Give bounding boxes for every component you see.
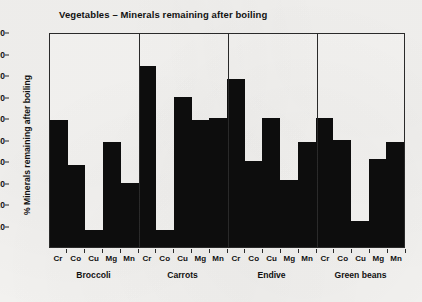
x-axis-tick-label-cr: Cr bbox=[316, 249, 334, 263]
x-axis-tick-label-mg: Mg bbox=[280, 249, 298, 263]
bar-green-beans-cu bbox=[351, 221, 369, 247]
bar-broccoli-cr bbox=[50, 120, 68, 247]
y-axis-tick-mark-90 bbox=[5, 54, 9, 55]
bar-group-green-beans bbox=[316, 34, 405, 247]
bar-green-beans-co bbox=[333, 140, 351, 248]
y-axis-label: % Minerals remaining after boiling bbox=[22, 45, 32, 245]
bar-broccoli-co bbox=[68, 165, 86, 247]
y-axis-tick-mark-100 bbox=[5, 33, 9, 34]
x-axis-groups: CrCoCuMgMnBroccoliCrCoCuMgMnCarrotsCrCoC… bbox=[49, 249, 405, 280]
bar-broccoli-mg bbox=[103, 142, 121, 247]
bar-group-broccoli bbox=[50, 34, 139, 247]
x-axis-group-carrots: CrCoCuMgMnCarrots bbox=[138, 249, 227, 280]
x-axis: CrCoCuMgMnBroccoliCrCoCuMgMnCarrotsCrCoC… bbox=[49, 249, 405, 302]
bar-endive-mg bbox=[280, 180, 298, 247]
bar-endive-cu bbox=[262, 118, 280, 247]
y-axis-tick-mark-20 bbox=[5, 205, 9, 206]
bar-endive-co bbox=[245, 161, 263, 247]
y-axis-tick-mark-70 bbox=[5, 97, 9, 98]
y-axis-tick-mark-10 bbox=[5, 226, 9, 227]
x-axis-group-endive: CrCoCuMgMnEndive bbox=[227, 249, 316, 280]
bar-carrots-mg bbox=[192, 120, 210, 247]
x-axis-tick-label-co: Co bbox=[67, 249, 85, 263]
chart-title: Vegetables – Minerals remaining after bo… bbox=[59, 9, 267, 20]
x-axis-tick-label-mg: Mg bbox=[191, 249, 209, 263]
bar-carrots-cr bbox=[139, 66, 157, 247]
x-axis-tick-label-mn: Mn bbox=[209, 249, 227, 263]
x-axis-tick-label-cu: Cu bbox=[352, 249, 370, 263]
x-axis-tick-label-co: Co bbox=[334, 249, 352, 263]
bar-broccoli-mn bbox=[121, 183, 139, 248]
group-separator-1 bbox=[139, 34, 140, 247]
bar-endive-mn bbox=[298, 142, 316, 247]
y-axis-tick-mark-80 bbox=[5, 76, 9, 77]
x-axis-mineral-row: CrCoCuMgMn bbox=[49, 249, 138, 263]
y-axis-tick-mark-50 bbox=[5, 140, 9, 141]
x-axis-group-green-beans: CrCoCuMgMnGreen beans bbox=[316, 249, 405, 280]
bar-group-endive bbox=[227, 34, 316, 247]
bar-broccoli-cu bbox=[85, 230, 103, 247]
x-axis-end-tick bbox=[405, 249, 406, 253]
bar-green-beans-mg bbox=[369, 159, 387, 247]
x-axis-tick-label-cu: Cu bbox=[174, 249, 192, 263]
x-axis-mineral-row: CrCoCuMgMn bbox=[227, 249, 316, 263]
y-axis-tick-mark-30 bbox=[5, 183, 9, 184]
x-axis-tick-label-cr: Cr bbox=[49, 249, 67, 263]
x-axis-group-label: Endive bbox=[227, 270, 316, 280]
x-axis-tick-label-mn: Mn bbox=[120, 249, 138, 263]
x-axis-tick-label-mg: Mg bbox=[102, 249, 120, 263]
x-axis-group-label: Green beans bbox=[316, 270, 405, 280]
bar-carrots-co bbox=[156, 230, 174, 247]
bar-carrots-cu bbox=[174, 97, 192, 248]
bar-endive-cr bbox=[227, 79, 245, 247]
x-axis-tick-label-mg: Mg bbox=[369, 249, 387, 263]
group-separator-2 bbox=[228, 34, 229, 247]
y-axis-tick-mark-60 bbox=[5, 119, 9, 120]
y-axis: % Minerals remaining after boiling 10203… bbox=[0, 0, 49, 302]
x-axis-tick-label-co: Co bbox=[156, 249, 174, 263]
x-axis-tick-label-cu: Cu bbox=[263, 249, 281, 263]
x-axis-tick-label-mn: Mn bbox=[387, 249, 405, 263]
bar-green-beans-cr bbox=[316, 118, 334, 247]
bars-layer bbox=[50, 34, 404, 247]
bar-group-carrots bbox=[139, 34, 228, 247]
x-axis-group-broccoli: CrCoCuMgMnBroccoli bbox=[49, 249, 138, 280]
x-axis-mineral-row: CrCoCuMgMn bbox=[316, 249, 405, 263]
x-axis-tick-label-co: Co bbox=[245, 249, 263, 263]
x-axis-group-label: Broccoli bbox=[49, 270, 138, 280]
bar-carrots-mn bbox=[209, 118, 227, 247]
x-axis-tick-label-cu: Cu bbox=[85, 249, 103, 263]
x-axis-tick-label-cr: Cr bbox=[138, 249, 156, 263]
x-axis-group-label: Carrots bbox=[138, 270, 227, 280]
x-axis-tick-label-cr: Cr bbox=[227, 249, 245, 263]
bar-green-beans-mn bbox=[386, 142, 404, 247]
group-separator-3 bbox=[317, 34, 318, 247]
x-axis-tick-label-mn: Mn bbox=[298, 249, 316, 263]
x-axis-mineral-row: CrCoCuMgMn bbox=[138, 249, 227, 263]
y-axis-tick-mark-40 bbox=[5, 162, 9, 163]
plot-area bbox=[49, 33, 405, 248]
